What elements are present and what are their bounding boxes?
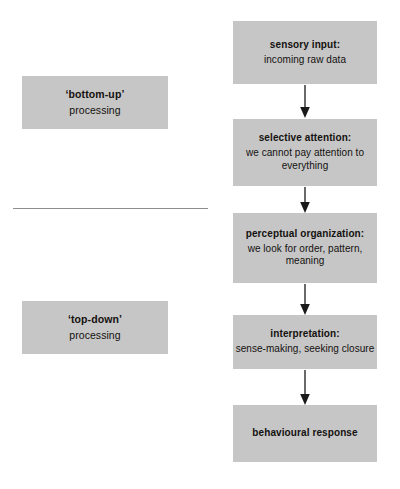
stage-sub-perceptual-organization: we look for order, pattern, meaning: [239, 243, 371, 269]
stage-title-behavioural-response: behavioural response: [252, 427, 357, 440]
side-label-bottom-up-title: ‘bottom-up’: [66, 88, 125, 101]
stage-sub-selective-attention: we cannot pay attention to everything: [239, 147, 371, 173]
diagram-canvas: ‘bottom-up’ processing ‘top-down’ proces…: [0, 0, 400, 489]
stage-sub-interpretation: sense-making, seeking closure: [236, 343, 375, 356]
stage-title-interpretation: interpretation:: [270, 328, 339, 341]
side-label-top-down-sub: processing: [69, 329, 120, 342]
stage-box-interpretation: interpretation: sense-making, seeking cl…: [233, 315, 377, 369]
stage-title-selective-attention: selective attention:: [259, 132, 352, 145]
arrow-down-icon: [299, 187, 311, 213]
horizontal-divider: [13, 208, 208, 209]
stage-title-perceptual-organization: perceptual organization:: [246, 228, 365, 241]
side-label-top-down-title: ‘top-down’: [68, 313, 122, 326]
stage-box-perceptual-organization: perceptual organization: we look for ord…: [233, 213, 377, 283]
side-label-bottom-up: ‘bottom-up’ processing: [22, 76, 168, 129]
stage-box-sensory-input: sensory input: incoming raw data: [233, 21, 377, 84]
arrow-down-icon: [299, 370, 311, 405]
stage-box-behavioural-response: behavioural response: [233, 405, 377, 462]
side-label-top-down: ‘top-down’ processing: [22, 301, 168, 354]
side-label-bottom-up-sub: processing: [69, 104, 120, 117]
arrow-down-icon: [299, 85, 311, 118]
stage-box-selective-attention: selective attention: we cannot pay atten…: [233, 119, 377, 186]
arrow-down-icon: [299, 284, 311, 315]
stage-sub-sensory-input: incoming raw data: [264, 54, 346, 67]
stage-title-sensory-input: sensory input:: [270, 39, 340, 52]
